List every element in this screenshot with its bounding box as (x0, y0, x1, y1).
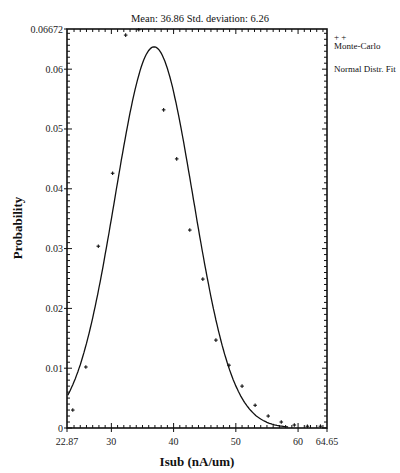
y-tick-label: 0.06 (46, 64, 64, 75)
data-point (111, 171, 115, 175)
x-tick-label: 64.65 (316, 436, 339, 447)
data-point (214, 338, 218, 342)
y-tick-label: 0.01 (46, 363, 64, 374)
data-point (293, 423, 297, 427)
legend-label-monte-carlo: Monte-Carlo (334, 41, 381, 51)
data-point (162, 108, 166, 112)
x-tick-label: 60 (293, 436, 303, 447)
x-axis-tick-labels: 22.873040506064.65 (56, 428, 339, 447)
x-tick-label: 50 (231, 436, 241, 447)
legend: + + Monte-Carlo Normal Distr. Fit (334, 32, 396, 74)
data-point (253, 403, 257, 407)
data-point (71, 408, 75, 412)
normal-fit-curve (68, 47, 288, 427)
y-tick-label: 0.03 (46, 243, 64, 254)
data-point (266, 414, 270, 418)
x-tick-label: 30 (106, 436, 116, 447)
monte-carlo-points (71, 28, 322, 428)
data-point (279, 420, 283, 424)
data-point (124, 33, 128, 37)
y-tick-label: 0.04 (46, 183, 64, 194)
y-tick-label: 0 (58, 423, 63, 434)
y-tick-label: 0.02 (46, 303, 64, 314)
chart: Mean: 36.86 Std. deviation: 6.26 22.8730… (0, 0, 400, 473)
legend-item-monte-carlo: + + Monte-Carlo (334, 32, 381, 51)
y-axis-ticks (67, 33, 327, 428)
y-tick-label: 0.05 (46, 123, 64, 134)
data-point (97, 244, 101, 248)
data-point (201, 277, 205, 281)
y-tick-label: 0.06672 (31, 24, 64, 35)
data-point (188, 228, 192, 232)
legend-label-normal-fit: Normal Distr. Fit (334, 64, 396, 74)
chart-title: Mean: 36.86 Std. deviation: 6.26 (131, 13, 269, 24)
y-axis-title: Probability (10, 196, 25, 259)
data-point (240, 384, 244, 388)
x-tick-label: 40 (169, 436, 179, 447)
data-point (175, 157, 179, 161)
plot-frame (67, 29, 327, 428)
x-tick-label: 22.87 (56, 436, 79, 447)
y-axis-tick-labels: 00.010.020.030.040.050.060.06672 (31, 24, 68, 434)
data-point (84, 365, 88, 369)
x-axis-title: Isub (nA/um) (160, 454, 235, 469)
legend-item-normal-fit: Normal Distr. Fit (334, 64, 396, 74)
